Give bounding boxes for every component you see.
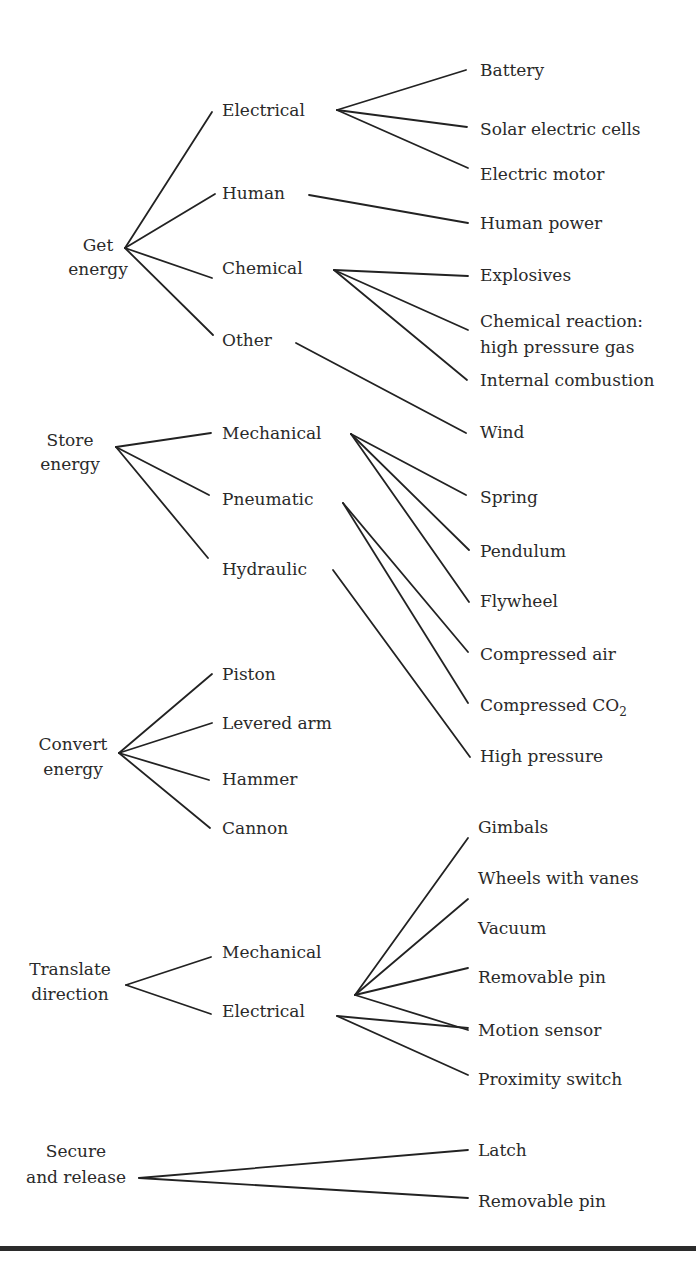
node-piston: Piston bbox=[222, 664, 276, 684]
leaf-chemical-reaction-line2: high pressure gas bbox=[480, 337, 634, 357]
edge bbox=[343, 503, 468, 703]
edge bbox=[139, 1178, 468, 1198]
edge bbox=[337, 70, 466, 110]
node-cannon: Cannon bbox=[222, 818, 288, 838]
node-other: Other bbox=[222, 330, 273, 350]
edge bbox=[116, 447, 209, 495]
group-secure-and-release: Secure and release Latch Removable pin bbox=[26, 1140, 606, 1211]
edge bbox=[119, 753, 209, 780]
leaf-pendulum: Pendulum bbox=[480, 541, 566, 561]
leaf-battery: Battery bbox=[480, 60, 544, 80]
node-levered-arm: Levered arm bbox=[222, 713, 332, 733]
leaf-motion-sensor: Motion sensor bbox=[478, 1020, 602, 1040]
leaf-vacuum: Vacuum bbox=[477, 918, 546, 938]
edge bbox=[116, 447, 208, 558]
root-label-get: Get bbox=[83, 235, 114, 255]
leaf-chemical-reaction-line1: Chemical reaction: bbox=[480, 311, 643, 331]
leaf-compressed-co2: Compressed CO2 bbox=[480, 695, 627, 719]
co2-prefix: Compressed CO bbox=[480, 695, 619, 715]
edge bbox=[334, 270, 467, 380]
edge bbox=[119, 723, 212, 753]
root-label-energy: energy bbox=[43, 759, 103, 779]
leaf-human-power: Human power bbox=[480, 213, 603, 233]
group-get-energy: Get energy Electrical Human Chemical Oth… bbox=[68, 60, 654, 442]
node-hammer: Hammer bbox=[222, 769, 298, 789]
edge bbox=[296, 343, 466, 433]
leaf-explosives: Explosives bbox=[480, 265, 571, 285]
edge bbox=[343, 503, 468, 652]
group-translate-direction: Translate direction Mechanical Electrica… bbox=[29, 817, 639, 1089]
leaf-spring: Spring bbox=[480, 487, 538, 507]
root-label-store: Store bbox=[47, 430, 94, 450]
leaf-internal-combustion: Internal combustion bbox=[480, 370, 655, 390]
leaf-latch: Latch bbox=[478, 1140, 527, 1160]
edge bbox=[351, 434, 469, 602]
edge bbox=[355, 995, 468, 1030]
root-label-translate: Translate bbox=[29, 959, 111, 979]
edge bbox=[125, 248, 213, 335]
node-hydraulic: Hydraulic bbox=[222, 559, 307, 579]
node-mechanical-store: Mechanical bbox=[222, 423, 322, 443]
edge bbox=[126, 957, 211, 985]
leaf-removable-pin: Removable pin bbox=[478, 967, 606, 987]
root-label-direction: direction bbox=[31, 984, 109, 1004]
edge bbox=[309, 195, 468, 223]
edge bbox=[119, 674, 212, 753]
leaf-gimbals: Gimbals bbox=[478, 817, 548, 837]
edge bbox=[351, 434, 466, 495]
edge bbox=[139, 1150, 468, 1178]
edge bbox=[125, 248, 212, 278]
node-electrical-translate: Electrical bbox=[222, 1001, 305, 1021]
node-electrical: Electrical bbox=[222, 100, 305, 120]
root-label-and-release: and release bbox=[26, 1167, 126, 1187]
edge bbox=[337, 1016, 468, 1028]
edge bbox=[126, 985, 211, 1014]
root-label-energy: energy bbox=[68, 259, 128, 279]
leaf-wheels-with-vanes: Wheels with vanes bbox=[478, 868, 639, 888]
edge bbox=[125, 194, 215, 248]
node-human: Human bbox=[222, 183, 285, 203]
root-label-secure: Secure bbox=[46, 1141, 106, 1161]
leaf-solar-electric-cells: Solar electric cells bbox=[480, 119, 641, 139]
leaf-high-pressure: High pressure bbox=[480, 746, 603, 766]
leaf-removable-pin: Removable pin bbox=[478, 1191, 606, 1211]
leaf-electric-motor: Electric motor bbox=[480, 164, 605, 184]
root-label-energy: energy bbox=[40, 454, 100, 474]
co2-subscript: 2 bbox=[619, 705, 627, 719]
leaf-compressed-air: Compressed air bbox=[480, 644, 617, 664]
node-chemical: Chemical bbox=[222, 258, 303, 278]
node-mechanical-translate: Mechanical bbox=[222, 942, 322, 962]
leaf-proximity-switch: Proximity switch bbox=[478, 1069, 622, 1089]
node-pneumatic: Pneumatic bbox=[222, 489, 313, 509]
leaf-flywheel: Flywheel bbox=[480, 591, 558, 611]
edge bbox=[119, 753, 210, 828]
edge bbox=[125, 112, 212, 248]
root-label-convert: Convert bbox=[39, 734, 108, 754]
edge bbox=[116, 433, 211, 447]
edge bbox=[334, 270, 468, 330]
energy-function-tree-diagram: Get energy Electrical Human Chemical Oth… bbox=[0, 0, 696, 1267]
leaf-wind: Wind bbox=[480, 422, 525, 442]
group-store-energy: Store energy Mechanical Pneumatic Hydrau… bbox=[40, 423, 627, 766]
group-convert-energy: Convert energy Piston Levered arm Hammer… bbox=[39, 664, 332, 838]
edge bbox=[334, 270, 468, 276]
bottom-rule-divider bbox=[0, 1246, 696, 1251]
